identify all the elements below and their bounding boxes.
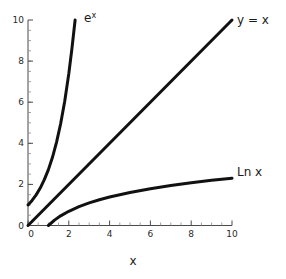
series-line-log	[48, 178, 232, 225]
x-tick-label-10: 10	[226, 229, 238, 239]
x-tick-label-4: 4	[107, 229, 113, 239]
curve-label-identity: y = x	[237, 13, 269, 27]
x-tick-label-6: 6	[148, 229, 154, 239]
y-tick-label-8: 8	[18, 56, 24, 66]
chart-plot-area: 10 8 6 4 2 0 0 2 4 6 8 10 ex y = x Ln x …	[0, 0, 286, 279]
chart-container: 10 8 6 4 2 0 0 2 4 6 8 10 ex y = x Ln x …	[0, 0, 286, 279]
x-tick-label-0: 0	[28, 229, 34, 239]
series-line-exp	[28, 20, 75, 205]
x-axis-title: x	[129, 254, 136, 268]
y-tick-label-2: 2	[18, 179, 24, 189]
series-line-identity	[28, 20, 232, 226]
x-tick-label-2: 2	[66, 229, 72, 239]
y-tick-label-6: 6	[18, 97, 24, 107]
curve-label-exp: ex	[84, 11, 96, 25]
y-tick-label-10: 10	[13, 15, 25, 25]
curve-label-exp-exponent: x	[91, 11, 96, 20]
curve-label-exp-base: e	[84, 11, 91, 25]
y-tick-label-4: 4	[18, 138, 24, 148]
x-tick-label-8: 8	[188, 229, 194, 239]
curve-label-log: Ln x	[237, 165, 262, 179]
y-tick-label-0: 0	[18, 221, 24, 231]
